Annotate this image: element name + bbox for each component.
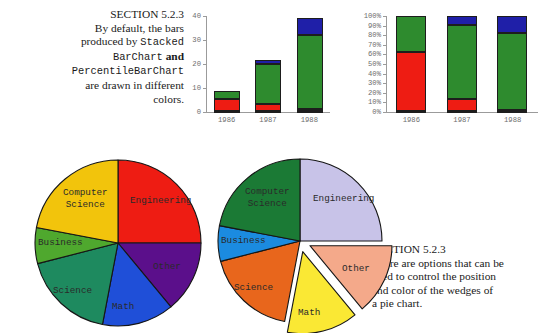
y-tick-label: 90% bbox=[360, 22, 381, 30]
pie-canvas bbox=[216, 157, 396, 333]
caption-bottom-line4: a pie chart. bbox=[372, 297, 554, 311]
caption-top-line2: produced by Stacked bbox=[28, 35, 184, 50]
y-tick-label: 30 bbox=[186, 36, 201, 44]
y-tick-mark bbox=[383, 54, 386, 55]
y-tick-mark bbox=[383, 26, 386, 27]
y-tick-label: 50% bbox=[360, 60, 381, 68]
y-tick-label: 0 bbox=[186, 108, 201, 116]
bar-segment[interactable] bbox=[255, 104, 281, 111]
caption-bottom-line2: used to control the position bbox=[372, 270, 554, 284]
bar-column[interactable] bbox=[447, 16, 477, 112]
y-tick-mark bbox=[383, 74, 386, 75]
bar-segment[interactable] bbox=[396, 52, 426, 111]
y-tick-label: 60% bbox=[360, 50, 381, 58]
y-tick-mark bbox=[383, 35, 386, 36]
caption-bottom-text: SECTION 5.2.3 There are options that can… bbox=[372, 243, 554, 311]
bar-column[interactable] bbox=[297, 16, 323, 112]
pie-chart-default: EngineeringOtherMathScienceBusinessCompu… bbox=[32, 157, 204, 329]
y-tick-label: 20% bbox=[360, 89, 381, 97]
bar-segment[interactable] bbox=[447, 99, 477, 111]
pie-chart-exploded: EngineeringOtherMathScienceBusinessCompu… bbox=[216, 157, 396, 333]
caption-bottom-line1: There are options that can be bbox=[372, 257, 554, 271]
x-tick-label: 1988 bbox=[487, 116, 538, 124]
bar-segment[interactable] bbox=[396, 16, 426, 52]
y-tick-mark bbox=[383, 102, 386, 103]
y-tick-label: 80% bbox=[360, 31, 381, 39]
bar-segment[interactable] bbox=[396, 111, 426, 113]
caption-top-line5: are drawn in different bbox=[28, 79, 184, 93]
bar-segment[interactable] bbox=[447, 25, 477, 99]
pie-slice[interactable] bbox=[300, 159, 382, 241]
bar-segment[interactable] bbox=[214, 91, 240, 99]
y-tick-mark bbox=[383, 45, 386, 46]
y-tick-mark bbox=[383, 83, 386, 84]
y-tick-mark bbox=[203, 64, 206, 65]
caption-top-line3: BarChart and bbox=[28, 50, 184, 65]
y-tick-label: 40 bbox=[186, 12, 201, 20]
caption-top-text: SECTION 5.2.3 By default, the bars produ… bbox=[28, 8, 184, 106]
y-tick-mark bbox=[383, 112, 386, 113]
bar-segment[interactable] bbox=[497, 33, 527, 110]
y-axis-line bbox=[386, 16, 387, 112]
bar-segment[interactable] bbox=[255, 60, 281, 64]
y-axis-line bbox=[206, 16, 207, 112]
bar-segment[interactable] bbox=[214, 111, 240, 113]
stacked-bar-chart: 010203040198619871988 bbox=[186, 10, 332, 130]
x-tick-label: 1987 bbox=[247, 116, 288, 124]
y-tick-mark bbox=[203, 88, 206, 89]
y-tick-mark bbox=[383, 64, 386, 65]
y-tick-label: 0% bbox=[360, 108, 381, 116]
y-tick-label: 10% bbox=[360, 98, 381, 106]
caption-top-code-stacked: Stacked bbox=[140, 36, 184, 48]
bar-column[interactable] bbox=[255, 16, 281, 112]
pie-slice[interactable] bbox=[118, 160, 201, 243]
x-tick-label: 1986 bbox=[386, 116, 437, 124]
x-tick-label: 1987 bbox=[437, 116, 488, 124]
y-tick-mark bbox=[203, 16, 206, 17]
bar-column[interactable] bbox=[214, 16, 240, 112]
caption-top-line3-suffix: and bbox=[163, 50, 184, 62]
bar-segment[interactable] bbox=[297, 109, 323, 111]
y-tick-mark bbox=[383, 93, 386, 94]
percentile-bar-chart: 0%10%20%30%40%50%60%70%80%90%100%1986198… bbox=[360, 10, 540, 130]
caption-top-code-percentilebarchart: PercentileBarChart bbox=[72, 65, 184, 77]
caption-top-line6: colors. bbox=[28, 93, 184, 107]
caption-top-line2-prefix: produced by bbox=[81, 35, 140, 47]
caption-top-line4: PercentileBarChart bbox=[28, 64, 184, 79]
caption-top-heading: SECTION 5.2.3 bbox=[28, 8, 184, 22]
caption-top-code-barchart: BarChart bbox=[113, 51, 163, 63]
bar-segment[interactable] bbox=[297, 35, 323, 109]
bar-segment[interactable] bbox=[447, 16, 477, 25]
caption-bottom-line3: and color of the wedges of bbox=[372, 284, 554, 298]
caption-top-line1: By default, the bars bbox=[28, 22, 184, 36]
y-tick-label: 10 bbox=[186, 84, 201, 92]
bar-column[interactable] bbox=[396, 16, 426, 112]
y-tick-label: 70% bbox=[360, 41, 381, 49]
y-tick-label: 40% bbox=[360, 70, 381, 78]
x-tick-label: 1986 bbox=[206, 116, 247, 124]
y-tick-mark bbox=[383, 16, 386, 17]
bar-column[interactable] bbox=[497, 16, 527, 112]
bar-segment[interactable] bbox=[497, 16, 527, 33]
y-tick-label: 20 bbox=[186, 60, 201, 68]
bar-segment[interactable] bbox=[255, 111, 281, 113]
bar-segment[interactable] bbox=[447, 111, 477, 113]
x-tick-label: 1988 bbox=[289, 116, 330, 124]
caption-bottom-heading: SECTION 5.2.3 bbox=[372, 243, 554, 257]
bar-segment[interactable] bbox=[214, 99, 240, 111]
pie-canvas bbox=[32, 157, 204, 329]
bar-segment[interactable] bbox=[297, 18, 323, 35]
y-tick-mark bbox=[203, 40, 206, 41]
y-tick-mark bbox=[203, 112, 206, 113]
bar-segment[interactable] bbox=[497, 110, 527, 112]
y-tick-label: 100% bbox=[360, 12, 381, 20]
bar-segment[interactable] bbox=[255, 64, 281, 104]
y-tick-label: 30% bbox=[360, 79, 381, 87]
